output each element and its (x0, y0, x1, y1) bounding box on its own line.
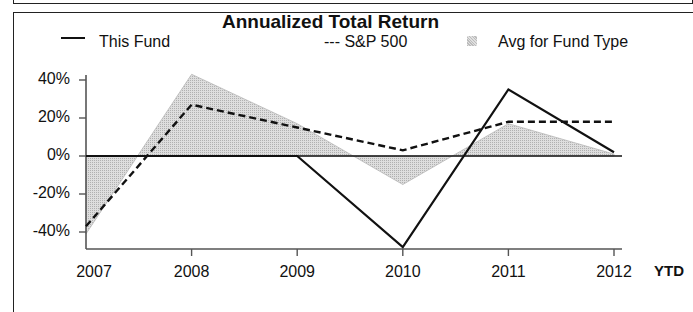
x-tick-label: 2010 (373, 263, 433, 281)
x-tick-label: 2009 (267, 263, 327, 281)
y-tick-label: -20% (10, 184, 70, 202)
y-tick-label: 40% (10, 70, 70, 88)
x-tick-label: 2008 (162, 263, 222, 281)
series-lines (86, 90, 614, 248)
avg-fund-type-area (86, 74, 614, 234)
ytd-label: YTD (654, 262, 684, 279)
this-fund-line (86, 90, 614, 248)
y-tick-label: 20% (10, 108, 70, 126)
x-tick-label: 2012 (584, 263, 644, 281)
avg-area-shape (86, 74, 614, 234)
y-tick-label: 0% (10, 146, 70, 164)
x-tick-label: 2011 (478, 263, 538, 281)
y-tick-label: -40% (10, 222, 70, 240)
x-tick-label: 2007 (64, 263, 124, 281)
axes (79, 75, 622, 256)
